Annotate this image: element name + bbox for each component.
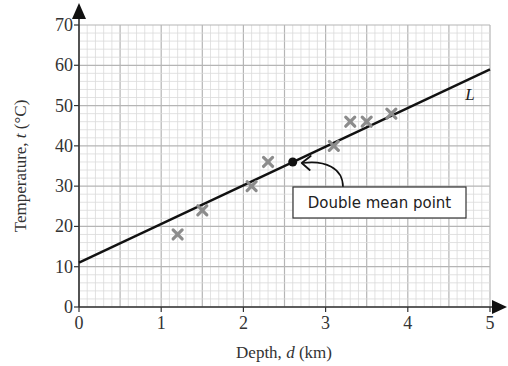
line-label: L [464,85,474,104]
tick-labels: 012345010203040506070 [55,15,495,333]
scatter-chart: 012345010203040506070 L Double mean poin… [0,0,508,366]
x-tick-label: 2 [239,313,248,333]
axes [72,3,507,314]
x-tick-label: 4 [403,313,412,333]
y-axis-arrow-icon [72,3,86,19]
x-axis-arrow-icon [492,300,507,314]
y-tick-label: 70 [55,15,73,35]
y-tick-label: 50 [55,96,73,116]
annotation-text: Double mean point [308,194,452,212]
y-tick-label: 30 [55,176,73,196]
x-tick-label: 5 [486,313,495,333]
x-tick-label: 0 [75,313,84,333]
y-tick-label: 20 [55,216,73,236]
y-tick-label: 60 [55,55,73,75]
y-tick-label: 0 [64,297,73,317]
x-axis-label: Depth, d (km) [236,343,332,362]
x-tick-label: 1 [157,313,166,333]
double-mean-point-marker [288,157,297,166]
y-axis-label: Temperature, t (°C) [11,100,30,233]
x-tick-label: 3 [321,313,330,333]
y-tick-label: 10 [55,257,73,277]
double-mean-annotation: Double mean point [288,156,466,218]
y-tick-label: 40 [55,136,73,156]
